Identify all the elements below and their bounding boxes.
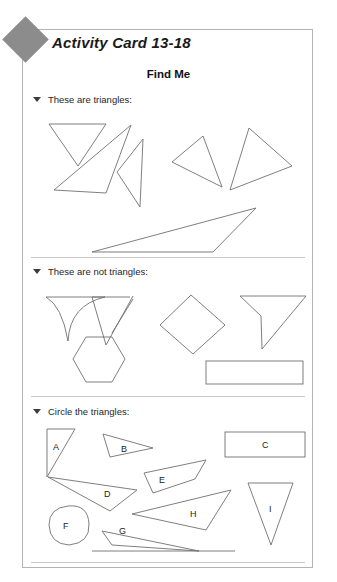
section-heading-triangles: These are triangles: — [33, 94, 132, 105]
section-label: These are triangles: — [48, 94, 132, 105]
section-divider — [31, 257, 305, 258]
section-divider — [31, 396, 305, 397]
card-title: Activity Card 13-18 — [52, 34, 191, 51]
triangle-bullet-icon — [33, 97, 41, 102]
section-label: These are not triangles: — [48, 266, 148, 277]
section-heading-not-triangles: These are not triangles: — [33, 266, 148, 277]
section-label: Circle the triangles: — [48, 406, 129, 417]
section-heading-circle-the-triangles: Circle the triangles: — [33, 406, 129, 417]
section-divider — [31, 562, 305, 563]
activity-card — [22, 29, 313, 568]
triangle-bullet-icon — [33, 409, 41, 414]
triangle-bullet-icon — [33, 269, 41, 274]
worksheet-title: Find Me — [0, 68, 337, 80]
